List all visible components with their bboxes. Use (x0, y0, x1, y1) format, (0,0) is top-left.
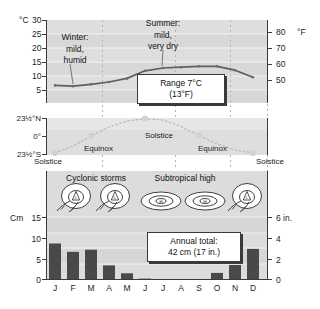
month-label-8: S (193, 284, 205, 293)
cyclonic-storms-header: Cyclonic storms (56, 174, 136, 183)
temp-tick-10: 10 (32, 72, 41, 81)
month-label-10: N (229, 284, 241, 293)
temperature-left-axis (42, 20, 47, 103)
temperature-range-callout: Range 7°C (13°F) (137, 74, 225, 104)
declination-left-axis (42, 118, 47, 155)
month-label-4: M (121, 284, 133, 293)
annual-total-line-2: 42 cm (17 in.) (152, 247, 236, 258)
bar-may (121, 273, 133, 279)
temperature-left-unit-label: °C (19, 16, 29, 25)
temp-tick-20: 20 (32, 44, 41, 53)
month-label-11: D (247, 284, 259, 293)
svg-text:H: H (159, 199, 162, 204)
month-label-6: J (157, 284, 169, 293)
temp-f-tick-70: 70 (276, 44, 285, 53)
precip-tick-5: 5 (30, 256, 41, 265)
month-label-3: A (103, 284, 115, 293)
precip-tick-0: 0 (30, 276, 41, 285)
temp-tick-30: 30 (32, 16, 41, 25)
bar-dec (247, 249, 259, 280)
precipitation-right-axis (268, 171, 273, 280)
month-label-1: F (67, 284, 79, 293)
temperature-right-unit-label: °F (297, 28, 306, 37)
precipitation-left-unit-label: Cm (10, 214, 23, 223)
month-label-2: M (85, 284, 97, 293)
temp-f-tick-60: 60 (276, 60, 285, 69)
temp-f-tick-50: 50 (276, 76, 285, 85)
summer-note-line-2: mild, (135, 31, 191, 40)
precip-in-tick-2: 2 (276, 256, 281, 265)
month-label-7: A (175, 284, 187, 293)
temp-f-tick-80: 80 (276, 28, 285, 37)
temp-tick-5: 5 (32, 86, 41, 95)
winter-note-line-2: mild, (52, 45, 98, 54)
bar-apr (103, 265, 115, 279)
declination-label-equinox-fall: Equinox (198, 145, 227, 153)
precip-in-tick-4: 4 (276, 235, 281, 244)
bar-jan (49, 244, 61, 280)
declination-label-solstice-left: Solstice (34, 158, 62, 166)
bar-nov (229, 265, 241, 280)
month-label-9: O (211, 284, 223, 293)
bar-oct (211, 273, 223, 280)
subtropical-high-header: Subtropical high (142, 174, 228, 183)
precip-in-tick-0: 0 (276, 276, 281, 285)
summer-note-line-1: Summer: (135, 19, 191, 28)
temperature-range-line-2: (13°F) (142, 89, 220, 100)
temperature-right-axis (268, 20, 273, 103)
annual-total-line-1: Annual total: (152, 236, 236, 247)
precip-tick-15: 15 (30, 214, 41, 223)
climate-diagram: L L H H L °C 30 25 20 15 10 5 80 70 60 5… (0, 0, 320, 309)
declination-label-solstice-mid: Solstice (145, 132, 173, 140)
temperature-range-line-1: Range 7°C (142, 78, 220, 89)
precip-tick-10: 10 (30, 235, 41, 244)
winter-note-line-3: humid (52, 56, 98, 65)
annual-total-callout: Annual total: 42 cm (17 in.) (147, 232, 241, 262)
temp-tick-15: 15 (32, 58, 41, 67)
winter-note: Winter: mild, humid (52, 33, 98, 65)
declination-tick-zero: 0° (3, 133, 41, 141)
bar-mar (85, 250, 97, 280)
summer-note: Summer: mild, very dry (135, 19, 191, 51)
declination-label-solstice-right: Solstice (256, 158, 284, 166)
precip-in-tick-6: 6 in. (276, 214, 292, 223)
month-label-0: J (49, 284, 61, 293)
temp-tick-25: 25 (32, 30, 41, 39)
declination-label-equinox-spring: Equinox (84, 145, 113, 153)
month-label-5: J (139, 284, 151, 293)
svg-text:H: H (203, 199, 206, 204)
bar-feb (67, 252, 79, 280)
declination-tick-north: 23½°N (3, 115, 41, 123)
summer-note-line-3: very dry (135, 42, 191, 51)
winter-note-line-1: Winter: (52, 33, 98, 42)
